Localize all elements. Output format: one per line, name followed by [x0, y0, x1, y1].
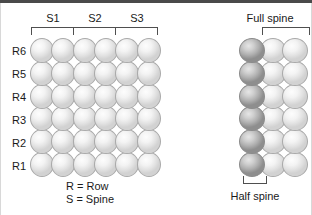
sphere — [73, 61, 97, 86]
sphere — [73, 84, 97, 109]
full-spine-bracket — [262, 27, 310, 35]
sphere — [115, 106, 139, 131]
sphere — [73, 129, 97, 154]
caption-row: R = Row — [66, 180, 109, 193]
sphere — [137, 106, 161, 131]
row-label-r5: R5 — [4, 68, 26, 80]
sphere — [137, 38, 161, 63]
sphere — [282, 84, 308, 109]
half-spine-sphere — [239, 84, 265, 109]
figure-top-border — [0, 0, 312, 3]
spine-label-s2: S2 — [74, 12, 116, 24]
figure-canvas: S1 S2 S3 R6 R5 R4 R3 R2 R1 R = Row S = S… — [0, 0, 312, 215]
sphere — [51, 106, 75, 131]
row-label-r3: R3 — [4, 114, 26, 126]
half-spine-sphere — [239, 61, 265, 86]
sphere — [282, 152, 308, 177]
half-spine-bracket — [243, 176, 267, 184]
sphere — [282, 38, 308, 63]
spine-bracket-s1 — [31, 27, 74, 35]
row-label-r6: R6 — [4, 45, 26, 57]
half-spine-sphere — [239, 106, 265, 131]
sphere — [73, 106, 97, 131]
row-label-r1: R1 — [4, 160, 26, 172]
sphere — [137, 61, 161, 86]
sphere — [137, 152, 161, 177]
sphere — [137, 129, 161, 154]
sphere — [51, 129, 75, 154]
spine-bracket-s3 — [115, 27, 158, 35]
sphere — [51, 152, 75, 177]
sphere — [73, 152, 97, 177]
sphere — [115, 61, 139, 86]
row-label-r4: R4 — [4, 91, 26, 103]
sphere — [282, 61, 308, 86]
half-spine-label: Half spine — [213, 190, 297, 202]
sphere — [282, 129, 308, 154]
sphere — [115, 84, 139, 109]
caption-spine: S = Spine — [66, 193, 114, 206]
figure-right-border — [311, 3, 312, 215]
half-spine-sphere — [239, 152, 265, 177]
half-spine-sphere — [239, 129, 265, 154]
full-spine-label: Full spine — [228, 12, 312, 24]
sphere — [73, 38, 97, 63]
sphere — [115, 152, 139, 177]
figure-left-border — [0, 3, 1, 215]
sphere — [51, 61, 75, 86]
row-label-r2: R2 — [4, 137, 26, 149]
sphere — [51, 84, 75, 109]
sphere — [51, 38, 75, 63]
spine-label-s1: S1 — [32, 12, 74, 24]
sphere — [115, 38, 139, 63]
spine-bracket-s2 — [73, 27, 116, 35]
half-spine-sphere — [239, 38, 265, 63]
sphere — [282, 106, 308, 131]
sphere — [137, 84, 161, 109]
spine-label-s3: S3 — [116, 12, 158, 24]
sphere — [115, 129, 139, 154]
